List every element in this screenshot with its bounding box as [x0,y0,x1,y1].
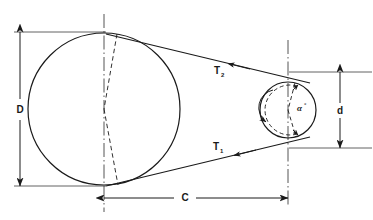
tight-side-label: T [214,65,220,76]
dimension-D: D [16,32,23,186]
small-wrap-chord-upper [288,83,295,110]
belt-slack-side-line [106,137,310,186]
tight-side-label-group: T 2 [214,65,225,78]
belt-tight-side [106,34,310,83]
small-wrap-chord-lower [288,110,296,137]
wrap-angle-unit: ° [304,102,307,108]
belt-tight-side-arrow [228,64,250,70]
dimension-D-label: D [16,104,23,115]
belt-drive-diagram: D d [0,0,373,220]
dimension-C-label: C [181,192,188,203]
wrap-angle-label: α [297,103,303,113]
slack-side-label: T [213,141,219,152]
tight-side-label-subscript: 2 [221,72,225,78]
wrap-chord-upper [104,34,117,109]
small-pulley-chords [288,83,296,137]
large-pulley-wrap-chords [104,34,118,185]
wrap-chord-lower [104,109,118,185]
wrap-angle-label-group: α ° [297,102,307,113]
slack-side-label-subscript: 1 [220,148,224,154]
dimension-d: d [337,72,343,148]
belt-tight-side-line [106,34,310,83]
belt-slack-side-arrow [234,150,256,156]
wrap-angle-arc [265,85,298,135]
dimension-d-label: d [337,105,343,116]
belt-slack-side [106,137,310,186]
dimension-C: C [104,192,288,203]
slack-side-label-group: T 1 [213,141,224,154]
diagram-canvas: D d [0,0,373,220]
